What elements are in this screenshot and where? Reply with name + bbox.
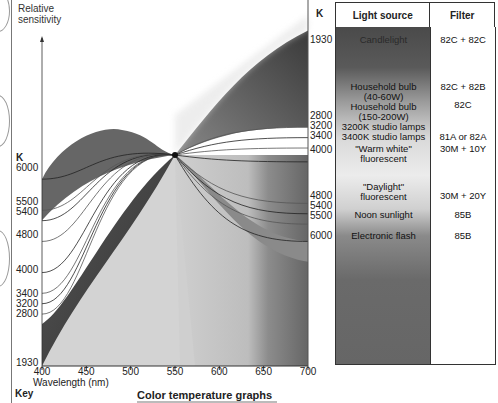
table-row-source: "Warm white" fluorescent bbox=[336, 144, 431, 164]
shade-lower-right bbox=[175, 155, 308, 366]
right-axis-label: 1930 bbox=[310, 34, 332, 45]
table-row-source: Household bulb (150-200W) bbox=[336, 102, 431, 122]
shade-upper-right-dark bbox=[175, 30, 308, 155]
chart-caption: Color temperature graphs bbox=[137, 389, 272, 401]
right-axis-label: 4000 bbox=[310, 144, 332, 155]
right-axis-unit: K bbox=[316, 8, 323, 19]
table-row-filter: 81A or 82A bbox=[431, 132, 495, 142]
filter-table: Light source Filter Candlelight Househol… bbox=[335, 2, 495, 364]
table-row-source: Household bulb (40-60W) bbox=[336, 82, 431, 102]
x-axis-title: Wavelength (nm) bbox=[33, 377, 109, 388]
table-row-source: 3400K studio lamps bbox=[336, 132, 431, 142]
table-row-source: Electronic flash bbox=[336, 231, 431, 241]
left-axis-label: 6000 bbox=[16, 162, 38, 173]
table-header: Light source Filter bbox=[335, 2, 495, 28]
x-tick-label: 500 bbox=[116, 366, 146, 377]
light-source-column: Candlelight Household bulb (40-60W) Hous… bbox=[335, 27, 431, 365]
header-light-source: Light source bbox=[336, 3, 430, 27]
x-tick-label: 450 bbox=[71, 366, 101, 377]
right-axis-label: 3400 bbox=[310, 130, 332, 141]
key-label: Key bbox=[15, 388, 33, 399]
table-row-filter: 82C + 82B bbox=[431, 82, 495, 92]
x-tick-label: 550 bbox=[160, 366, 190, 377]
table-row-filter: 85B bbox=[431, 210, 495, 220]
x-tick-label: 600 bbox=[204, 366, 234, 377]
x-tick-label: 400 bbox=[27, 366, 57, 377]
left-axis-label: 5400 bbox=[16, 206, 38, 217]
left-axis-label: 4800 bbox=[16, 229, 38, 240]
pivot-point bbox=[172, 152, 178, 158]
left-axis-label: 2800 bbox=[16, 308, 38, 319]
x-tick-label: 700 bbox=[293, 366, 323, 377]
x-tick-label: 650 bbox=[249, 366, 279, 377]
header-filter: Filter bbox=[430, 3, 494, 27]
right-axis-label: 5500 bbox=[310, 210, 332, 221]
table-row-filter: 82C + 82C bbox=[431, 35, 495, 45]
table-row-source: "Daylight" fluorescent bbox=[336, 182, 431, 202]
table-row-filter: 85B bbox=[431, 231, 495, 241]
table-row-source: Candlelight bbox=[336, 35, 431, 45]
filter-column: 82C + 82C 82C + 82B 82C 81A or 82A 30M +… bbox=[430, 27, 496, 365]
left-axis-label: 4000 bbox=[16, 264, 38, 275]
table-row-filter: 82C bbox=[431, 100, 495, 110]
table-row-source: Noon sunlight bbox=[336, 210, 431, 220]
table-row-filter: 30M + 10Y bbox=[431, 144, 495, 154]
table-row-filter: 30M + 20Y bbox=[431, 191, 495, 201]
right-axis-label: 6000 bbox=[310, 230, 332, 241]
y-axis-arrow-icon bbox=[40, 36, 44, 42]
